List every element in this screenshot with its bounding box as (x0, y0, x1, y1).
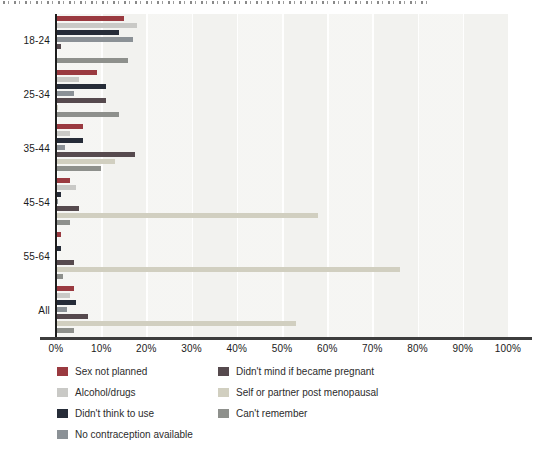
y-axis-label-45-54: 45-54 (0, 197, 50, 208)
bar (56, 274, 63, 279)
bar (56, 77, 79, 82)
bar (56, 307, 67, 312)
legend-swatch-icon (57, 409, 68, 418)
bar (56, 328, 74, 333)
plot-area (56, 14, 508, 337)
y-axis-label-All: All (0, 305, 50, 316)
bar (56, 23, 137, 28)
bar (56, 300, 76, 305)
bar (56, 267, 400, 272)
bar (56, 166, 101, 171)
x-tick-label: 70% (362, 343, 383, 354)
x-axis-ticks: 0%10%20%30%40%50%60%70%80%90%100% (56, 343, 508, 355)
bar-group-25-34 (56, 70, 508, 119)
x-tick-label: 80% (407, 343, 428, 354)
bar (56, 84, 106, 89)
legend-item: Didn't mind if became pregnant (218, 366, 378, 376)
legend-label: No contraception available (75, 429, 193, 440)
legend-label: Didn't mind if became pregnant (236, 366, 374, 377)
legend-item: Alcohol/drugs (57, 387, 218, 397)
bar-group-35-44 (56, 124, 508, 173)
x-tick-label: 10% (91, 343, 112, 354)
bar (56, 314, 88, 319)
legend-swatch-icon (218, 388, 229, 397)
legend-swatch-icon (218, 367, 229, 376)
bar-group-18-24 (56, 16, 508, 65)
x-tick-label: 30% (181, 343, 202, 354)
x-tick-label: 50% (272, 343, 293, 354)
x-tick-label: 40% (226, 343, 247, 354)
y-axis-label-35-44: 35-44 (0, 143, 50, 154)
legend-column-right: Didn't mind if became pregnantSelf or pa… (218, 366, 378, 439)
legend-item: Sex not planned (57, 366, 218, 376)
legend-swatch-icon (57, 388, 68, 397)
bar (56, 70, 97, 75)
bar (56, 293, 70, 298)
x-tick-label: 20% (136, 343, 157, 354)
bar (56, 286, 74, 291)
bar (56, 124, 83, 129)
bar (56, 30, 119, 35)
legend-item: No contraception available (57, 429, 218, 439)
bar (56, 131, 70, 136)
bar (56, 185, 76, 190)
legend-label: Sex not planned (75, 366, 147, 377)
bar (56, 260, 74, 265)
bar (56, 91, 74, 96)
bar (56, 145, 65, 150)
y-axis-line (55, 14, 57, 340)
bar (56, 220, 70, 225)
y-axis-label-55-64: 55-64 (0, 251, 50, 262)
x-tick-label: 60% (317, 343, 338, 354)
legend-label: Can't remember (236, 408, 307, 419)
legend-label: Self or partner post menopausal (236, 387, 378, 398)
bar (56, 321, 296, 326)
x-tick-label: 90% (452, 343, 473, 354)
bar (56, 112, 119, 117)
legend-swatch-icon (57, 367, 68, 376)
bar (56, 58, 128, 63)
bar-group-55-64 (56, 232, 508, 281)
legend-item: Self or partner post menopausal (218, 387, 378, 397)
legend-label: Didn't think to use (75, 408, 154, 419)
legend-label: Alcohol/drugs (75, 387, 136, 398)
bar (56, 152, 135, 157)
bar (56, 178, 70, 183)
cropped-title-text (3, 1, 427, 4)
bar (56, 16, 124, 21)
legend-item: Didn't think to use (57, 408, 218, 418)
bar (56, 206, 79, 211)
legend-swatch-icon (218, 409, 229, 418)
bar-group-All (56, 286, 508, 335)
bar (56, 98, 106, 103)
bar (56, 138, 83, 143)
chart-legend: Sex not plannedAlcohol/drugsDidn't think… (57, 366, 378, 439)
legend-swatch-icon (57, 430, 68, 439)
x-axis-line (40, 337, 532, 340)
bar (56, 159, 115, 164)
x-tick-label: 0% (49, 343, 64, 354)
bar-group-45-54 (56, 178, 508, 227)
bar (56, 213, 318, 218)
y-axis-label-25-34: 25-34 (0, 89, 50, 100)
legend-item: Can't remember (218, 408, 378, 418)
x-tick-label: 100% (495, 343, 521, 354)
y-axis-label-18-24: 18-24 (0, 35, 50, 46)
legend-column-left: Sex not plannedAlcohol/drugsDidn't think… (57, 366, 218, 439)
bar (56, 37, 133, 42)
chart-canvas: 18-2425-3435-4445-5455-64All 0%10%20%30%… (0, 0, 539, 460)
